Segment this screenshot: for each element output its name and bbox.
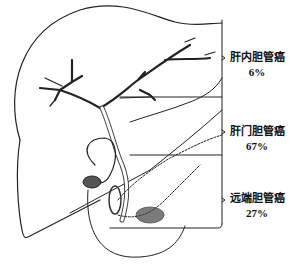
left-hepatic-duct <box>40 60 100 108</box>
cholangiocarcinoma-location-diagram: 肝内胆管癌 6% 肝门胆管癌 67% 远端胆管癌 27% <box>0 0 291 265</box>
label-distal-name: 远端胆管癌 <box>224 192 290 206</box>
pancreas <box>118 135 222 200</box>
label-hilar: 肝门胆管癌 67% <box>224 125 290 153</box>
label-intrahepatic: 肝内胆管癌 6% <box>224 51 290 79</box>
label-intrahepatic-name: 肝内胆管癌 <box>224 51 290 65</box>
liver-outline <box>15 6 222 140</box>
right-hepatic-duct <box>100 45 210 108</box>
duodenum-outline <box>88 190 185 257</box>
label-distal-percent: 27% <box>224 206 290 220</box>
label-distal: 远端胆管癌 27% <box>224 192 290 220</box>
label-hilar-name: 肝门胆管癌 <box>224 125 290 139</box>
label-intrahepatic-percent: 6% <box>224 65 290 79</box>
pointer-distal <box>110 224 222 228</box>
label-hilar-percent: 67% <box>224 139 290 153</box>
